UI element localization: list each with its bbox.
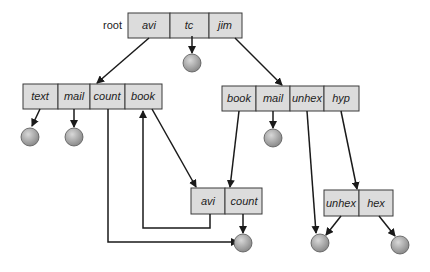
jim-entry-mail: mail — [263, 92, 284, 104]
root-entry-jim: jim — [216, 19, 232, 31]
root-entry-avi: avi — [142, 19, 157, 31]
avi-entry-text: text — [31, 90, 50, 102]
root-directory: avi tc jim — [128, 13, 242, 38]
avi-entry-book: book — [131, 90, 155, 102]
hyp-entry-unhex: unhex — [326, 197, 356, 209]
hyp-entry-hex: hex — [367, 197, 385, 209]
jim-entry-book: book — [227, 92, 251, 104]
file-node-unhex — [311, 234, 329, 252]
root-entry-tc: tc — [185, 19, 194, 31]
hyp-directory: unhex hex — [324, 190, 393, 216]
avi-directory: text mail count book — [23, 84, 162, 109]
file-node-tc — [183, 54, 201, 72]
file-node-text — [21, 128, 39, 146]
shared-directory: avi count — [191, 188, 262, 214]
directory-graph: root avi tc jim text mail count book boo… — [0, 0, 430, 272]
jim-entry-hyp: hyp — [332, 92, 350, 104]
avi-entry-mail: mail — [64, 90, 85, 102]
jim-entry-unhex: unhex — [292, 92, 322, 104]
shared-entry-avi: avi — [201, 195, 216, 207]
file-node-count — [234, 234, 252, 252]
root-label: root — [103, 19, 122, 31]
file-node-hex — [391, 236, 409, 254]
file-node-jim-mail — [264, 129, 282, 147]
avi-entry-count: count — [94, 90, 122, 102]
jim-directory: book mail unhex hyp — [222, 86, 359, 111]
shared-entry-count: count — [231, 195, 259, 207]
file-node-mail — [65, 128, 83, 146]
